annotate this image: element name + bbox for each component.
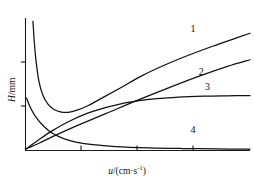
y-axis-label-variable: H [7,95,17,102]
y-axis-label-unit: /mm [7,78,17,95]
curve-4 [27,98,250,149]
curve-label-2: 2 [199,66,204,77]
y-axis-label: H/mm [8,78,18,102]
curve-label-4: 4 [191,124,196,135]
x-axis-label: u/(cm·s-1) [108,166,146,176]
x-axis-label-container: u/(cm·s-1) [0,160,254,178]
curve-3 [26,96,251,150]
curve-label-1: 1 [191,23,196,34]
y-axis-label-container: H/mm [1,60,25,120]
curve-label-3: 3 [205,81,210,92]
x-axis-label-close: ) [143,166,146,176]
curve-2 [26,60,251,149]
van-deemter-chart: 1 2 3 4 H/mm u/(cm·s-1) [0,0,254,180]
x-axis-label-unit: /(cm·s [113,166,137,176]
plot-area: 1 2 3 4 [0,0,254,180]
